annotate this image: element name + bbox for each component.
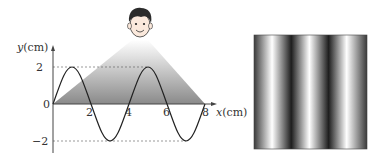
x-axis-label: x(cm) <box>216 106 247 119</box>
x-tick-4: 4 <box>125 106 132 119</box>
x-tick-6: 6 <box>163 106 170 119</box>
y-tick-neg2: −2 <box>32 135 48 148</box>
y-axis-label: y(cm) <box>16 41 48 54</box>
y-axis-arrow-icon <box>51 45 55 51</box>
y-tick-2: 2 <box>36 61 43 74</box>
wave-diagram: y(cm) 2 0 −2 2 4 6 8 x(cm) <box>0 0 385 164</box>
fringe-pattern <box>254 35 367 149</box>
x-tick-8: 8 <box>202 106 209 119</box>
y-tick-0: 0 <box>43 98 50 111</box>
view-cone <box>53 40 205 104</box>
boy-face-icon <box>128 8 153 37</box>
x-tick-2: 2 <box>86 106 93 119</box>
